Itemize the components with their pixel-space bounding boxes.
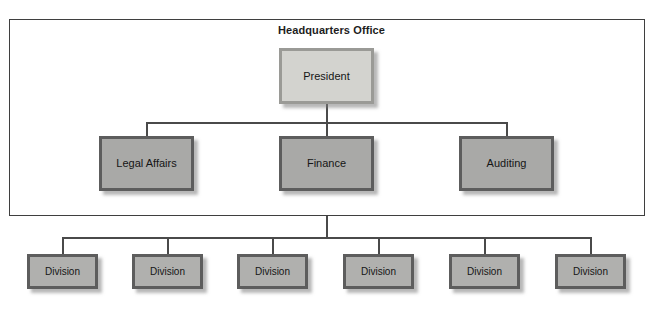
connector-to-legal-affairs bbox=[146, 122, 148, 137]
connector-to-division-6 bbox=[590, 237, 592, 255]
node-division-3-label: Division bbox=[255, 266, 290, 278]
node-auditing[interactable]: Auditing bbox=[459, 136, 554, 191]
node-division-5[interactable]: Division bbox=[449, 254, 520, 289]
node-division-1[interactable]: Division bbox=[27, 254, 98, 289]
node-division-2-label: Division bbox=[150, 266, 185, 278]
node-division-4[interactable]: Division bbox=[343, 254, 414, 289]
node-division-5-label: Division bbox=[467, 266, 502, 278]
connector-to-division-2 bbox=[167, 237, 169, 255]
node-legal-affairs-label: Legal Affairs bbox=[116, 157, 176, 170]
node-president-label: President bbox=[303, 70, 349, 83]
node-president[interactable]: President bbox=[279, 48, 374, 104]
node-legal-affairs[interactable]: Legal Affairs bbox=[99, 136, 194, 191]
node-auditing-label: Auditing bbox=[487, 157, 527, 170]
connector-to-division-1 bbox=[62, 237, 64, 255]
org-chart-canvas: Headquarters Office President Legal Affa… bbox=[0, 0, 653, 311]
node-finance[interactable]: Finance bbox=[279, 136, 374, 191]
node-division-1-label: Division bbox=[45, 266, 80, 278]
connector-to-finance bbox=[326, 122, 328, 137]
node-division-6-label: Division bbox=[573, 266, 608, 278]
node-finance-label: Finance bbox=[307, 157, 346, 170]
connector-division-bus bbox=[62, 237, 591, 239]
headquarters-office-label-text: Headquarters Office bbox=[278, 24, 385, 36]
node-division-4-label: Division bbox=[361, 266, 396, 278]
node-division-6[interactable]: Division bbox=[555, 254, 626, 289]
node-division-3[interactable]: Division bbox=[237, 254, 308, 289]
connector-to-division-4 bbox=[378, 237, 380, 255]
headquarters-office-label: Headquarters Office bbox=[0, 24, 653, 37]
connector-to-division-3 bbox=[272, 237, 274, 255]
connector-to-auditing bbox=[506, 122, 508, 137]
node-division-2[interactable]: Division bbox=[132, 254, 203, 289]
connector-president-down bbox=[326, 103, 328, 123]
connector-enclosure-down bbox=[326, 216, 328, 238]
connector-to-division-5 bbox=[484, 237, 486, 255]
